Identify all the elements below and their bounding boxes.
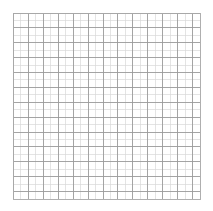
page-canvas	[0, 0, 213, 211]
grid-paper-graphic	[0, 0, 213, 211]
grid-cell-fill	[14, 13, 201, 199]
